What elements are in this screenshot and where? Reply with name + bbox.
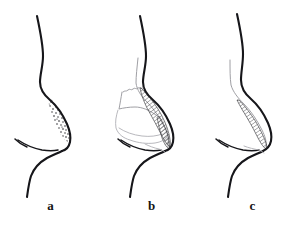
panel-c-drawing bbox=[202, 0, 303, 226]
profile-outline-a bbox=[37, 16, 70, 151]
cartilage-lower-edge-b bbox=[119, 128, 162, 136]
panel-c: c bbox=[202, 0, 303, 226]
upper-lip-c bbox=[216, 139, 228, 147]
columella-c bbox=[228, 151, 263, 197]
panel-label-a: a bbox=[0, 199, 101, 212]
figure-root: a bbox=[0, 0, 303, 226]
hatched-resection-region-c bbox=[237, 100, 267, 149]
panel-label-c: c bbox=[202, 199, 303, 212]
upper-lip-b bbox=[118, 139, 130, 147]
upper-lip-a bbox=[15, 139, 27, 147]
panel-label-b: b bbox=[101, 199, 202, 212]
panel-b: b bbox=[101, 0, 202, 226]
panel-b-drawing bbox=[101, 0, 202, 226]
columella-a bbox=[27, 151, 62, 197]
panel-a-drawing bbox=[0, 0, 101, 226]
columella-b bbox=[130, 151, 165, 197]
panel-a: a bbox=[0, 0, 101, 226]
